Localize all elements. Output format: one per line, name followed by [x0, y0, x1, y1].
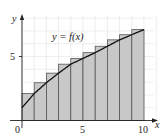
- riemann-rectangle: [22, 94, 34, 121]
- y-axis-label: y: [11, 13, 17, 24]
- riemann-rectangle: [95, 46, 107, 120]
- x-tick-label-0: 0: [15, 124, 20, 135]
- x-axis-label: x: [154, 119, 160, 130]
- riemann-rectangle: [132, 30, 144, 121]
- riemann-rectangle: [46, 73, 58, 120]
- y-tick-label-5: 5: [10, 51, 15, 62]
- y-axis-arrow-icon: [20, 14, 24, 20]
- riemann-rectangle: [71, 58, 83, 120]
- curve-label: y = f(x): [51, 31, 84, 43]
- riemann-rectangle: [59, 64, 71, 120]
- riemann-rectangle: [83, 53, 95, 121]
- riemann-sum-chart: y x 0 5 10 5 y = f(x): [0, 0, 166, 139]
- x-tick-label-5: 5: [80, 124, 85, 135]
- x-tick-label-10: 10: [138, 124, 148, 135]
- riemann-rectangle: [107, 40, 119, 121]
- riemann-rectangle: [120, 35, 132, 121]
